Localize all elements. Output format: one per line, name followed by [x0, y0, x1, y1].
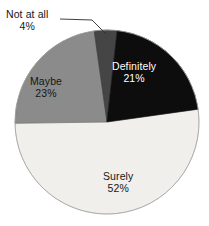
pie-slice-surely[interactable] — [15, 109, 199, 214]
pie-label-not-at-all-name: Not at all — [6, 8, 48, 20]
pie-label-maybe: Maybe 23% — [30, 75, 62, 99]
pie-label-definitely-name: Definitely — [112, 60, 156, 72]
pie-label-not-at-all-value: 4% — [6, 20, 48, 32]
pie-label-definitely: Definitely 21% — [112, 60, 156, 84]
pie-chart: Definitely 21% Maybe 23% Surely 52% Not … — [0, 0, 209, 226]
pie-label-maybe-name: Maybe — [30, 75, 62, 87]
pie-label-maybe-value: 23% — [30, 87, 62, 99]
pie-label-surely: Surely 52% — [103, 170, 133, 194]
pie-label-not-at-all: Not at all 4% — [6, 8, 48, 32]
pie-label-definitely-value: 21% — [112, 72, 156, 84]
pie-label-surely-name: Surely — [103, 170, 133, 182]
pie-label-surely-value: 52% — [103, 182, 133, 194]
